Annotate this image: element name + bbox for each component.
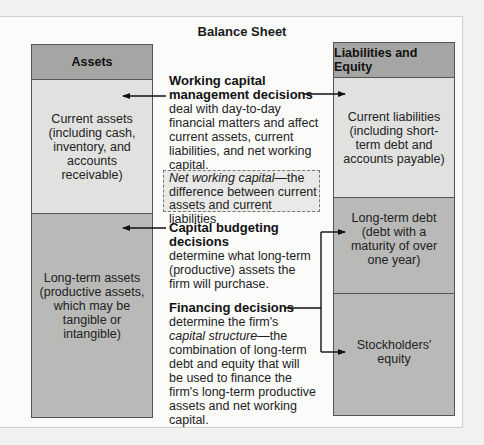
connector-arrows [0,0,484,445]
